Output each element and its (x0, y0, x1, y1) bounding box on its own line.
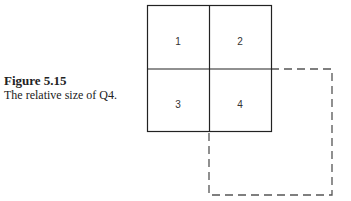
solid-grid (148, 6, 272, 132)
quadrant-label-2: 2 (237, 36, 243, 47)
quadrant-label-4: 4 (237, 99, 243, 110)
quadrant-label-1: 1 (175, 36, 181, 47)
quadrant-label-3: 3 (175, 99, 181, 110)
quadrant-diagram: 1 2 3 4 (0, 0, 351, 201)
